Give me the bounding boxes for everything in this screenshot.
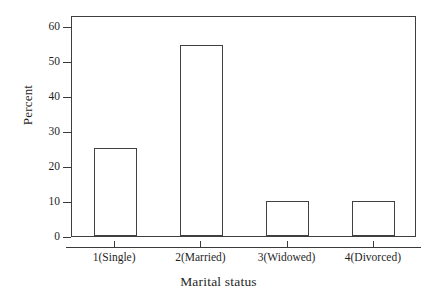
y-axis-tick-mark	[63, 202, 71, 203]
y-axis-tick-mark	[63, 62, 71, 63]
x-axis-line	[66, 247, 421, 248]
x-axis-tick-label: 4(Divorced)	[325, 251, 421, 264]
y-axis-tick-label: 0	[34, 231, 60, 243]
x-axis-tick-mark	[373, 241, 374, 248]
bar-chart: Percent 0102030405060 1(Single)2(Married…	[0, 0, 437, 303]
y-axis-tick-mark	[63, 167, 71, 168]
x-axis-tick-label: 3(Widowed)	[239, 251, 335, 264]
bar	[352, 201, 395, 236]
y-axis-tick-label: 40	[34, 91, 60, 103]
y-axis-tick-mark	[63, 237, 71, 238]
bar	[94, 148, 137, 236]
y-axis-tick-mark	[63, 27, 71, 28]
y-axis-tick-label: 10	[34, 196, 60, 208]
y-axis-tick-label: 60	[34, 21, 60, 33]
x-axis-tick-mark	[200, 241, 201, 248]
y-axis-tick-labels: 0102030405060	[34, 0, 60, 303]
x-axis-tick-label: 1(Single)	[66, 251, 162, 264]
y-axis-tick-label: 20	[34, 161, 60, 173]
x-axis-tick-mark	[287, 241, 288, 248]
y-axis-tick-mark	[63, 132, 71, 133]
y-axis-tick-label: 50	[34, 56, 60, 68]
y-axis-tick-label: 30	[34, 126, 60, 138]
x-axis-tick-mark	[114, 241, 115, 248]
y-axis-tick-mark	[63, 97, 71, 98]
x-axis-tick-label: 2(Married)	[152, 251, 248, 264]
plot-area	[71, 16, 416, 237]
x-axis-title: Marital status	[0, 274, 437, 290]
bar	[180, 45, 223, 236]
bar	[266, 201, 309, 236]
